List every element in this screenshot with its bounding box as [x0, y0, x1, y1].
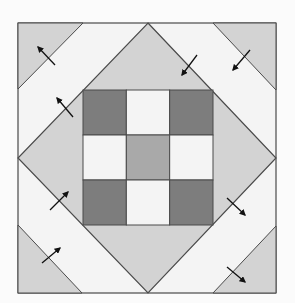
grid-cell-dark [170, 90, 213, 135]
grid-cell-white [170, 135, 213, 180]
grid-cell-white [126, 90, 169, 135]
nine-patch-grid [83, 90, 213, 225]
grid-cell-dark [83, 90, 126, 135]
grid-cell-dark [83, 180, 126, 225]
grid-cell-white [83, 135, 126, 180]
quilt-block-diagram [0, 0, 295, 303]
grid-cell-dark [170, 180, 213, 225]
grid-cell-medium [126, 135, 169, 180]
grid-cell-white [126, 180, 169, 225]
